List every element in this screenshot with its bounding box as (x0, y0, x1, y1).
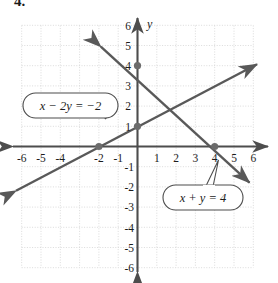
x-tick--2: -2 (94, 152, 104, 164)
point-4-0 (211, 143, 218, 150)
y-tick--2: -2 (124, 181, 134, 193)
y-tick--4: -4 (124, 222, 134, 234)
figure-container: 4. (0, 0, 278, 283)
y-tick-4: 4 (125, 60, 131, 72)
y-tick-2: 2 (125, 100, 131, 112)
x-tick--6: -6 (17, 152, 27, 164)
point-0-1 (134, 123, 141, 130)
x-tick-2: 2 (173, 152, 179, 164)
callout-line1-label: x − 2y = −2 (39, 99, 101, 113)
callout-line2: x + y = 4 (163, 160, 243, 210)
y-tick--6: -6 (124, 262, 134, 274)
y-tick--1: -1 (124, 161, 134, 173)
callout-line2-label: x + y = 4 (179, 191, 227, 205)
y-tick--3: -3 (124, 201, 134, 213)
y-tick-3: 3 (125, 80, 131, 92)
coordinate-graph: -6 -5 -4 -2 -1 1 2 3 4 5 6 6 5 4 3 2 1 -… (0, 0, 278, 283)
x-tick-5: 5 (231, 152, 237, 164)
y-tick--5: -5 (124, 242, 134, 254)
x-tick--5: -5 (36, 152, 46, 164)
y-axis-label: y (146, 17, 153, 31)
y-tick-1: 1 (125, 121, 131, 133)
y-tick-5: 5 (125, 40, 131, 52)
axes (13, 18, 268, 272)
point-0-4 (134, 62, 141, 69)
x-tick-1: 1 (154, 152, 160, 164)
x-tick--1: -1 (113, 152, 123, 164)
point-neg2-0 (95, 143, 102, 150)
x-tick-6: 6 (250, 152, 256, 164)
x-tick--4: -4 (56, 152, 66, 164)
y-tick-6: 6 (125, 20, 131, 32)
x-tick-3: 3 (193, 152, 199, 164)
callout-line1: x − 2y = −2 (23, 93, 118, 119)
